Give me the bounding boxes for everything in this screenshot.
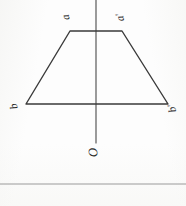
diagram-canvas: a a' b b' O [0, 0, 186, 206]
origin-label-o: O [86, 147, 100, 158]
trapezoid-shape [26, 31, 168, 104]
geometry-figure [0, 0, 186, 206]
